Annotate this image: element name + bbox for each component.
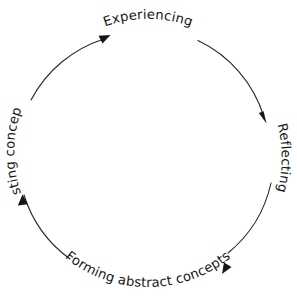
stage-label-experiencing-text: Experiencing <box>101 7 195 29</box>
stage-label-reflecting-text: Reflecting <box>274 122 293 194</box>
arc-testing-to-experiencing <box>31 39 104 100</box>
cycle-diagram: Experiencing Reflecting Forming abstract… <box>0 0 297 305</box>
stage-label-reflecting: Reflecting <box>274 122 293 194</box>
stage-label-forming-abstract-concepts: Forming abstract concepts <box>63 248 233 290</box>
arrow-to-experiencing-icon <box>99 35 111 44</box>
stage-label-testing-concepts: Testing concepts <box>0 0 24 197</box>
stage-label-forming-abstract-concepts-text: Forming abstract concepts <box>63 248 233 290</box>
arrow-to-testing-icon <box>18 195 28 206</box>
arc-forming-to-testing <box>24 195 70 259</box>
stage-label-experiencing: Experiencing <box>101 7 195 29</box>
stage-label-testing-concepts-text: Testing concepts <box>0 0 24 197</box>
arc-experiencing-to-reflecting <box>198 41 264 118</box>
arc-reflecting-to-forming <box>228 183 271 253</box>
arrow-to-reflecting-icon <box>259 111 267 123</box>
cycle-diagram-canvas: Experiencing Reflecting Forming abstract… <box>0 0 297 305</box>
